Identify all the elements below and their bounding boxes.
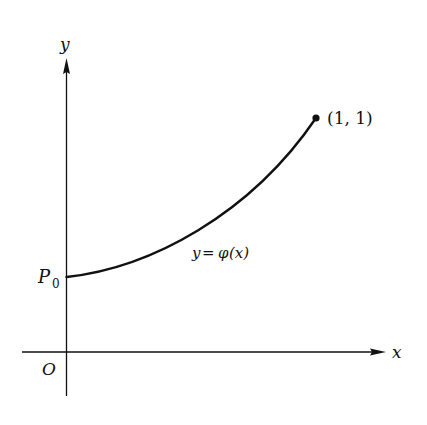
y-axis-arrow-icon [63, 58, 70, 74]
x-axis-label: x [392, 342, 402, 362]
svg-text:φ: φ [218, 244, 229, 262]
end-point-dot [312, 114, 319, 121]
diagram-canvas: y x O P 0 (1, 1) y = φ (x) [0, 0, 427, 425]
end-point-label: (1, 1) [327, 108, 373, 128]
svg-text:=: = [202, 244, 215, 262]
origin-label: O [42, 359, 56, 379]
x-axis-arrow-icon [370, 349, 386, 356]
svg-text:0: 0 [52, 277, 60, 291]
x-axis [22, 349, 386, 356]
svg-text:y: y [191, 244, 201, 262]
y-axis-label: y [59, 34, 70, 54]
svg-text:P: P [37, 266, 51, 287]
y-axis [63, 58, 70, 396]
curve-label: y = φ (x) [191, 244, 249, 262]
start-point-label: P 0 [37, 266, 60, 291]
svg-text:(x): (x) [229, 244, 249, 262]
